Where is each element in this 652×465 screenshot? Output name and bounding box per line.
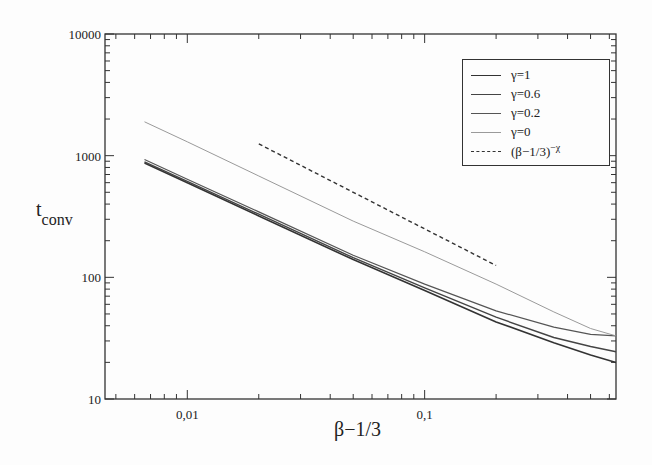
legend-label: γ=0 <box>511 124 531 140</box>
legend-item: γ=1 <box>471 66 531 84</box>
y-axis-label: tconv <box>36 198 73 221</box>
legend-swatch <box>471 94 501 95</box>
legend-item: (β−1/3)−χ <box>471 142 560 160</box>
y-axis-label-subscript: conv <box>42 211 73 228</box>
legend-label: γ=0.6 <box>511 86 540 102</box>
series-line-4 <box>259 144 496 266</box>
series-line-0 <box>145 163 617 362</box>
y-tick-label: 10 <box>88 392 101 407</box>
legend: γ=1γ=0.6γ=0.2γ=0(β−1/3)−χ <box>462 59 610 166</box>
legend-item: γ=0.2 <box>471 104 540 122</box>
legend-swatch <box>471 75 501 76</box>
series-line-1 <box>145 162 617 352</box>
y-tick-label: 10000 <box>69 27 102 42</box>
y-tick-label: 100 <box>82 270 102 285</box>
legend-swatch <box>471 132 501 133</box>
legend-label: (β−1/3)−χ <box>511 142 560 160</box>
x-tick-label: 0,01 <box>176 407 199 422</box>
y-axis-label-main: t <box>36 198 42 220</box>
y-tick-label: 1000 <box>75 149 101 164</box>
legend-swatch <box>471 113 501 114</box>
legend-label: γ=1 <box>511 67 531 83</box>
legend-item: γ=0 <box>471 123 531 141</box>
legend-label: γ=0.2 <box>511 105 540 121</box>
x-axis-label: β−1/3 <box>334 418 381 441</box>
x-tick-label: 0,1 <box>417 407 433 422</box>
legend-item: γ=0.6 <box>471 85 540 103</box>
legend-swatch <box>471 151 501 152</box>
series-line-2 <box>145 160 617 336</box>
